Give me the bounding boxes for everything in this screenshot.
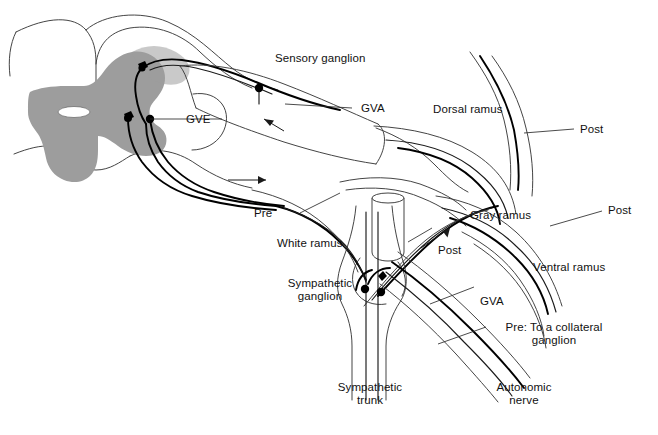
sympathetic-ganglion-line-2: ganglion <box>298 290 342 302</box>
gray-matter-butterfly <box>28 46 190 182</box>
anatomical-figure: Sensory ganglion GVE GVA Dorsal ramus Po… <box>0 0 658 435</box>
label-post-gray: Post <box>438 244 461 257</box>
label-gva-upper: GVA <box>361 102 385 115</box>
sympathetic-trunk-line-2: trunk <box>357 394 383 406</box>
label-autonomic-nerve: Autonomic nerve <box>482 381 566 407</box>
label-ventral-ramus: Ventral ramus <box>533 261 605 274</box>
label-post-dorsal: Post <box>580 123 603 136</box>
central-canal <box>58 107 90 118</box>
pre-collateral-line-1: Pre: To a collateral <box>505 321 602 333</box>
autonomic-nerve-line-2: nerve <box>509 394 538 406</box>
diagram-canvas <box>0 0 658 435</box>
sympathetic-trunk-line-1: Sympathetic <box>338 381 402 393</box>
sympathetic-ganglion-line-1: Sympathetic <box>288 277 352 289</box>
sympathetic-neuron-soma-2 <box>377 288 385 296</box>
autonomic-nerve-line-1: Autonomic <box>496 381 551 393</box>
cut-nerve-stump <box>372 193 404 261</box>
pre-collateral-line-2: ganglion <box>532 334 576 346</box>
label-gve: GVE <box>186 113 211 126</box>
label-pre-collateral: Pre: To a collateral ganglion <box>488 321 620 347</box>
sensory-neuron-soma <box>255 84 263 92</box>
label-dorsal-ramus: Dorsal ramus <box>433 103 503 116</box>
label-pre: Pre <box>254 207 272 220</box>
label-gray-ramus: Gray ramus <box>470 209 531 222</box>
label-sympathetic-ganglion: Sympathetic ganglion <box>272 277 368 303</box>
label-gva-lower: GVA <box>480 295 504 308</box>
label-post-ventral: Post <box>608 204 631 217</box>
label-white-ramus: White ramus <box>277 237 343 250</box>
label-sensory-ganglion: Sensory ganglion <box>275 52 365 65</box>
flow-arrow-afferent <box>264 119 284 131</box>
label-sympathetic-trunk: Sympathetic trunk <box>320 381 420 407</box>
